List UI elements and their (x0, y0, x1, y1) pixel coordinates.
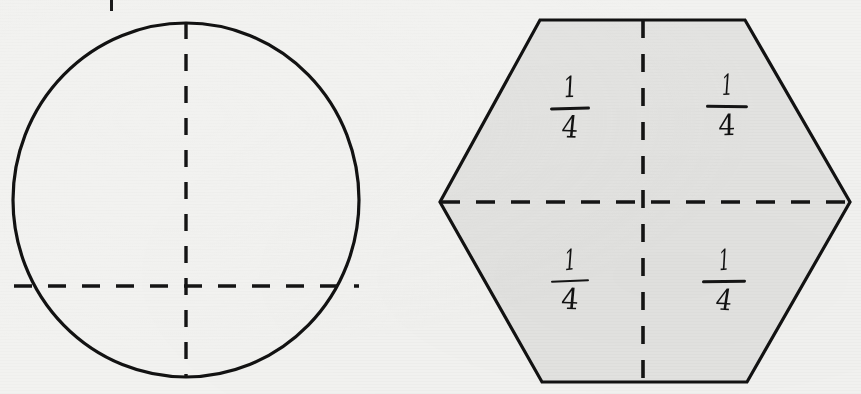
hex-label-bottom-right: 1 4 (697, 247, 751, 314)
hex-label-bottom-left: 1 4 (543, 247, 597, 313)
fraction-denominator: 4 (702, 111, 752, 139)
hexagon-shaded-fill (440, 20, 850, 382)
fraction-denominator: 4 (543, 285, 597, 314)
fraction-numerator: 1 (552, 245, 588, 276)
shapes-canvas (0, 0, 861, 394)
fraction-denominator: 4 (698, 285, 750, 315)
fraction-numerator: 1 (710, 71, 745, 101)
hex-label-top-left: 1 4 (543, 74, 597, 141)
fraction-numerator: 1 (550, 73, 590, 102)
hex-label-top-right: 1 4 (700, 72, 754, 139)
fraction-numerator: 1 (708, 246, 741, 275)
hexagon-figure[interactable] (440, 20, 850, 382)
top-stray-tick (110, 0, 113, 11)
worksheet-page: 1 4 1 4 1 4 1 4 (0, 0, 861, 394)
fraction-denominator: 4 (544, 112, 595, 142)
circle-figure[interactable] (13, 22, 359, 378)
